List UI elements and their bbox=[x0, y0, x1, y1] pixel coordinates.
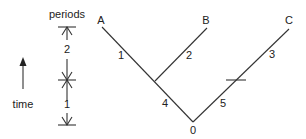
branch-label-5: 5 bbox=[220, 97, 226, 109]
arrow-up-icon bbox=[20, 57, 27, 66]
period-1-label: 1 bbox=[64, 98, 70, 110]
time-arrow bbox=[20, 57, 27, 89]
branch-c bbox=[193, 29, 289, 122]
branch-label-4: 4 bbox=[162, 97, 168, 109]
root-label: 0 bbox=[190, 124, 196, 136]
tree-diagram: time periods 2 1 A B C 1 2 3 4 5 0 bbox=[0, 0, 306, 139]
time-label: time bbox=[13, 98, 34, 110]
branch-b bbox=[155, 28, 207, 81]
leaf-c-label: C bbox=[285, 14, 293, 26]
leaf-a-label: A bbox=[97, 14, 105, 26]
period-2-label: 2 bbox=[64, 43, 70, 55]
branch-label-3: 3 bbox=[269, 48, 275, 60]
periods-title: periods bbox=[49, 8, 86, 20]
tree-branches bbox=[102, 27, 289, 122]
leaf-b-label: B bbox=[202, 14, 209, 26]
branch-a-root bbox=[102, 27, 193, 122]
branch-label-1: 1 bbox=[118, 49, 124, 61]
period-scale bbox=[58, 27, 76, 125]
branch-label-2: 2 bbox=[186, 49, 192, 61]
